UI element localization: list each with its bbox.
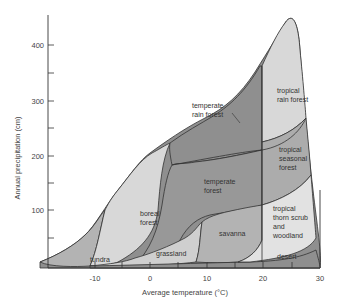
label-tropical-rain-1: tropical [277, 87, 300, 95]
label-tundra: tundra [90, 256, 110, 263]
label-desert: desert [277, 253, 297, 260]
label-temperate-forest-2: forest [204, 187, 222, 194]
y-tick-200: 200 [31, 152, 44, 161]
x-tick-10: 10 [203, 274, 211, 283]
region-tropical-rain-forest [262, 18, 306, 142]
biome-diagram: 400 300 200 100 -10 0 10 20 30 Average t… [0, 0, 343, 307]
label-tropical-thorn-1: tropical [273, 205, 296, 213]
y-tick-300: 300 [31, 97, 44, 106]
y-axis-title: Annual precipitation (cm) [13, 116, 22, 199]
label-temperate-rain-1: temperate [192, 102, 224, 110]
label-tropical-rain-2: rain forest [277, 96, 308, 103]
label-tropical-seasonal-2: seasonal [279, 155, 307, 162]
x-tick-30: 30 [316, 274, 324, 283]
label-tropical-thorn-2: thorn scrub [273, 214, 308, 221]
label-tropical-seasonal-1: tropical [279, 146, 302, 154]
x-tick-0: 0 [148, 274, 152, 283]
label-boreal-2: forest [140, 219, 158, 226]
label-grassland: grassland [156, 250, 186, 258]
y-tick-100: 100 [31, 206, 44, 215]
label-tropical-thorn-4: woodland [272, 232, 303, 239]
label-temperate-forest-1: temperate [204, 178, 236, 186]
label-savanna: savanna [219, 230, 246, 237]
y-ticks [48, 45, 54, 238]
label-tropical-thorn-3: and [273, 223, 285, 230]
label-temperate-rain-2: rain forest [192, 111, 223, 118]
x-tick-neg10: -10 [90, 274, 101, 283]
x-axis-title: Average temperature (°C) [142, 288, 228, 297]
label-boreal-1: boreal [140, 210, 160, 217]
x-tick-20: 20 [259, 274, 267, 283]
label-tropical-seasonal-3: forest [279, 164, 297, 171]
y-tick-400: 400 [31, 41, 44, 50]
